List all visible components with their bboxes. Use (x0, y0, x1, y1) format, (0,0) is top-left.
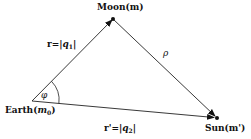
sun-label: Sun(m') (205, 123, 245, 133)
edge-moon-sun (113, 19, 215, 116)
angle-arc (52, 81, 60, 103)
edge-earth-sun (32, 101, 214, 118)
edge-earth-moon (32, 20, 112, 101)
three-body-diagram: Moon(m) r=|q1| ρ φ Earth(m0) r'=|q2| Sun… (0, 0, 251, 139)
moon-point (111, 17, 115, 21)
r-label: r=|q1| (47, 39, 76, 50)
r-prime-label: r'=|q2| (104, 123, 136, 134)
moon-label: Moon(m) (97, 2, 144, 12)
phi-label: φ (41, 90, 48, 100)
earth-label: Earth(m0) (5, 105, 55, 116)
rho-label: ρ (162, 48, 169, 58)
sun-point (215, 116, 219, 120)
